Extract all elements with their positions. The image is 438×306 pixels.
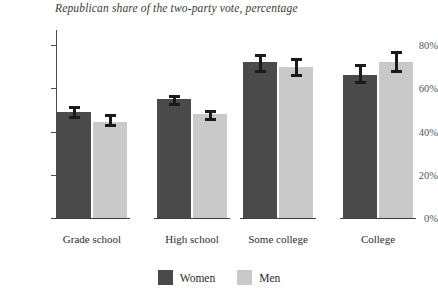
bar-men-grade-school (93, 122, 127, 218)
y-tick-mark (51, 132, 56, 133)
y-tick-mark (51, 175, 56, 176)
error-bar-cap-top (169, 95, 180, 98)
error-bar-cap-top (391, 51, 402, 54)
error-bar-cap-bottom (105, 124, 116, 127)
plot-area: 0%20%40%60%80% Grade schoolHigh schoolSo… (0, 0, 438, 306)
x-category-label-some-college: Some college (221, 233, 335, 245)
error-bar (243, 54, 277, 73)
bar-women-high-school (157, 99, 191, 218)
error-bar-cap-bottom (255, 70, 266, 73)
legend-swatch-men (237, 270, 252, 285)
error-bar (157, 95, 191, 106)
chart-container: Republican share of the two-party vote, … (0, 0, 438, 306)
error-bar-cap-top (291, 58, 302, 61)
error-bar-cap-top (255, 54, 266, 57)
legend-item-men[interactable]: Men (237, 270, 280, 285)
bar-women-some-college (243, 62, 277, 218)
error-bar (57, 106, 91, 119)
error-bar-cap-bottom (391, 70, 402, 73)
bar-men-college (379, 62, 413, 218)
error-bar (193, 110, 227, 121)
bar-men-high-school (193, 114, 227, 218)
error-bar-cap-bottom (355, 81, 366, 84)
error-bar-cap-top (105, 114, 116, 117)
x-category-label-grade-school: Grade school (35, 233, 149, 245)
error-bar-cap-bottom (69, 116, 80, 119)
group-baseline (154, 218, 230, 219)
error-bar-cap-top (355, 64, 366, 67)
y-tick-label: 80% (392, 40, 438, 51)
bar-women-college (343, 75, 377, 218)
x-category-label-college: College (321, 233, 435, 245)
legend-label-women: Women (180, 272, 215, 284)
y-tick-mark (51, 45, 56, 46)
bar-men-some-college (279, 67, 313, 218)
error-bar-cap-bottom (291, 74, 302, 77)
bar-women-grade-school (57, 112, 91, 218)
error-bar-cap-top (69, 106, 80, 109)
group-baseline (54, 218, 130, 219)
error-bar-cap-bottom (169, 103, 180, 106)
error-bar-cap-top (205, 110, 216, 113)
error-bar (343, 64, 377, 83)
legend-label-men: Men (259, 272, 280, 284)
group-baseline (240, 218, 316, 219)
group-baseline (340, 218, 416, 219)
chart-legend: WomenMen (0, 270, 438, 285)
y-tick-mark (51, 88, 56, 89)
error-bar (279, 58, 313, 77)
error-bar-cap-bottom (205, 118, 216, 121)
error-bar (379, 51, 413, 73)
legend-item-women[interactable]: Women (158, 270, 215, 285)
legend-swatch-women (158, 270, 173, 285)
error-bar (93, 114, 127, 127)
